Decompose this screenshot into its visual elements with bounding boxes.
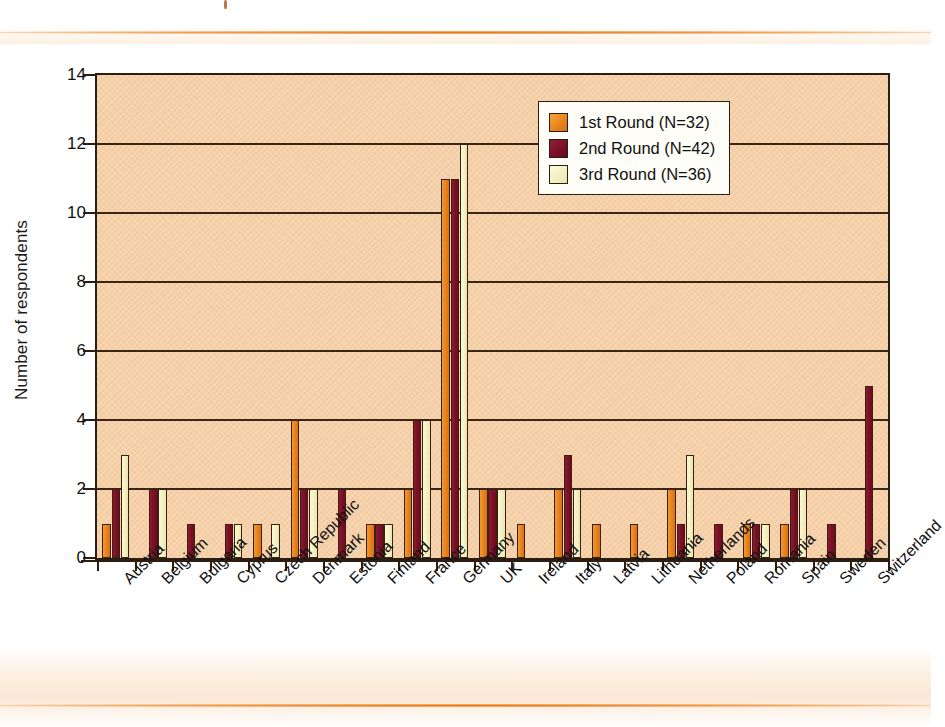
legend-label-2nd-round: 2nd Round (N=42)	[579, 139, 715, 158]
bar	[451, 179, 460, 559]
plot-texture	[97, 75, 888, 558]
y-axis-tick-label: 14	[46, 65, 86, 85]
y-axis-tick-mark	[83, 212, 95, 214]
gridline	[97, 212, 888, 214]
y-axis-tick-label: 8	[46, 272, 86, 292]
legend-swatch-2nd-round	[549, 139, 568, 158]
y-axis-tick-label: 10	[46, 203, 86, 223]
y-axis-tick-mark	[83, 419, 95, 421]
legend-swatch-3rd-round	[549, 165, 568, 184]
plot-area	[95, 73, 890, 560]
legend-item: 1st Round (N=32)	[549, 109, 715, 135]
bar	[112, 489, 121, 558]
legend-swatch-1st-round	[549, 113, 568, 132]
bottom-accent-rule	[0, 704, 931, 707]
gridline	[97, 350, 888, 352]
legend-item: 3rd Round (N=36)	[549, 161, 715, 187]
y-axis-tick-label: 0	[46, 548, 86, 568]
legend-item: 2nd Round (N=42)	[549, 135, 715, 161]
gridline	[97, 143, 888, 145]
bar	[441, 179, 450, 559]
y-axis-tick-label: 4	[46, 410, 86, 430]
bottom-decorative-band	[0, 648, 931, 727]
legend-label-1st-round: 1st Round (N=32)	[579, 113, 710, 132]
y-axis-tick-label: 12	[46, 134, 86, 154]
x-axis-line	[81, 560, 890, 562]
legend-label-3rd-round: 3rd Round (N=36)	[579, 165, 712, 184]
bar	[291, 420, 300, 558]
bar	[865, 386, 874, 559]
y-axis-tick-mark	[83, 350, 95, 352]
bar	[121, 455, 130, 559]
y-axis-tick-mark	[83, 143, 95, 145]
bar	[102, 524, 111, 559]
y-axis-tick-mark	[83, 557, 95, 559]
bar	[422, 420, 431, 558]
y-axis-tick-mark	[83, 74, 95, 76]
gridline	[97, 281, 888, 283]
y-axis-tick-labels: 02468101214	[36, 0, 86, 727]
x-axis-tick-label: UK	[497, 559, 525, 587]
y-axis-tick-label: 6	[46, 341, 86, 361]
y-axis-tick-mark	[83, 488, 95, 490]
y-axis-tick-mark	[83, 281, 95, 283]
y-axis-tick-label: 2	[46, 479, 86, 499]
y-axis-title: Number of respondents	[12, 50, 32, 570]
chart-legend: 1st Round (N=32) 2nd Round (N=42) 3rd Ro…	[538, 101, 730, 195]
bar	[460, 144, 469, 558]
gridline	[97, 419, 888, 421]
bar	[592, 524, 601, 559]
